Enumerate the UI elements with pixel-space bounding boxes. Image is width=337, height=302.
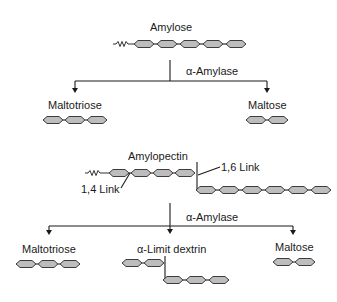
glucose-unit-icon xyxy=(38,261,58,268)
amylopectin-reaction-arrows xyxy=(46,203,296,235)
product-label-maltose-2: Maltose xyxy=(275,241,314,253)
glucose-unit-icon xyxy=(144,260,164,267)
reducing-end-zigzag-icon xyxy=(85,171,109,176)
glucose-unit-icon xyxy=(134,41,154,48)
glucose-unit-icon xyxy=(196,187,216,194)
glucose-unit-icon xyxy=(109,170,129,177)
amylose-title: Amylose xyxy=(150,21,192,33)
glucose-unit-icon xyxy=(175,170,195,177)
glucose-unit-icon xyxy=(209,277,229,284)
glucose-unit-icon xyxy=(180,41,200,48)
enzyme-label-alpha-amylase: α-Amylase xyxy=(186,65,238,77)
arrow-down-icon xyxy=(167,229,173,234)
arrow-down-icon xyxy=(290,230,296,235)
glucose-unit-icon xyxy=(186,277,206,284)
maltotriose-chain-2 xyxy=(16,261,80,268)
amylopectin-main-chain xyxy=(85,170,195,177)
glucose-unit-icon xyxy=(246,117,266,124)
product-label-alpha-limit-dextrin: α-Limit dextrin xyxy=(137,243,206,255)
glucose-unit-icon xyxy=(273,259,293,266)
starch-digestion-diagram: Amylose α-Amylase Maltotriose Maltose Am… xyxy=(0,0,337,302)
arrow-down-icon xyxy=(264,88,270,93)
reducing-end-zigzag-icon xyxy=(113,42,134,47)
glucose-unit-icon xyxy=(16,261,36,268)
maltose-chain xyxy=(246,117,288,124)
glucose-unit-icon xyxy=(265,187,285,194)
maltotriose-chain xyxy=(43,117,107,124)
glucose-unit-icon xyxy=(157,41,177,48)
glucose-unit-icon xyxy=(288,187,308,194)
glucose-unit-icon xyxy=(122,260,142,267)
arrow-down-icon xyxy=(72,88,78,93)
glucose-unit-icon xyxy=(65,117,85,124)
link-1-6-callout-line xyxy=(198,167,220,175)
amylopectin-branch xyxy=(196,162,331,194)
glucose-unit-icon xyxy=(163,277,183,284)
link-1-6-label: 1,6 Link xyxy=(221,161,260,173)
glucose-unit-icon xyxy=(268,117,288,124)
glucose-unit-icon xyxy=(219,187,239,194)
arrow-down-icon xyxy=(46,230,52,235)
glucose-units xyxy=(134,41,246,48)
glucose-unit-icon xyxy=(43,117,63,124)
link-1-4-label: 1,4 Link xyxy=(81,183,120,195)
glucose-unit-icon xyxy=(295,259,315,266)
product-label-maltotriose: Maltotriose xyxy=(48,99,102,111)
amylose-chain xyxy=(113,41,246,48)
glucose-unit-icon xyxy=(131,170,151,177)
glucose-unit-icon xyxy=(311,187,331,194)
glucose-unit-icon xyxy=(60,261,80,268)
glucose-unit-icon xyxy=(153,170,173,177)
enzyme-label-alpha-amylase-2: α-Amylase xyxy=(186,211,238,223)
glucose-unit-icon xyxy=(226,41,246,48)
product-label-maltotriose-2: Maltotriose xyxy=(22,243,76,255)
glucose-unit-icon xyxy=(242,187,262,194)
amylopectin-title: Amylopectin xyxy=(128,150,188,162)
amylose-reaction-arrows xyxy=(72,60,270,93)
glucose-unit-icon xyxy=(203,41,223,48)
alpha-limit-dextrin-chain xyxy=(122,256,229,284)
product-label-maltose: Maltose xyxy=(248,99,287,111)
maltose-chain-2 xyxy=(273,259,315,266)
glucose-unit-icon xyxy=(87,117,107,124)
